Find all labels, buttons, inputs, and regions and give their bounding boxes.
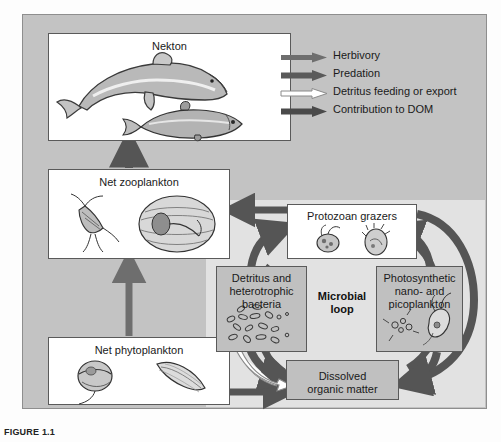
box-dom-label-2: organic matter [287, 383, 398, 396]
box-photosynthetic-plankton[interactable]: Photosynthetic nano- and picoplankton [376, 266, 463, 352]
figure-caption-label: FIGURE [4, 427, 39, 437]
legend-label-detritus-feeding: Detritus feeding or export [333, 85, 457, 97]
ciliate-icon [362, 223, 390, 255]
box-nekton[interactable]: Nekton [48, 33, 291, 141]
legend-item-predation: Predation [281, 66, 481, 84]
box-net-zooplankton-label: Net zooplankton [49, 176, 229, 189]
box-protozoan-grazers-label: Protozoan grazers [288, 210, 416, 223]
microbial-loop-label-line2: loop [307, 303, 377, 316]
predation-arrow-icon [281, 70, 327, 81]
box-dissolved-organic-matter[interactable]: Dissolved organic matter [286, 360, 399, 400]
box-photosynthetic-label-1: Photosynthetic [377, 272, 462, 285]
detritus-feeding-arrow-icon [281, 88, 327, 99]
box-dom-label-1: Dissolved [287, 370, 398, 383]
legend-label-contribution-dom: Contribution to DOM [333, 103, 433, 115]
box-detritus-bacteria-label-3: bacteria [217, 298, 306, 311]
dolphin-icon [57, 53, 227, 118]
box-detritus-bacteria-label-1: Detritus and [217, 272, 306, 285]
microbial-loop-label-line1: Microbial [307, 290, 377, 303]
box-net-zooplankton[interactable]: Net zooplankton [48, 169, 230, 259]
figure-canvas: Nekton N [0, 0, 501, 442]
larvacean-icon [139, 196, 215, 252]
legend: Herbivory Predation Detritus feeding or … [281, 48, 481, 120]
box-net-phytoplankton[interactable]: Net phytoplankton [48, 337, 230, 405]
picoplankton-cluster-icon [383, 309, 419, 341]
flagellate-icon [317, 225, 340, 252]
legend-item-detritus-feeding: Detritus feeding or export [281, 84, 481, 102]
legend-item-herbivory: Herbivory [281, 48, 481, 66]
legend-item-contribution-dom: Contribution to DOM [281, 102, 481, 120]
legend-label-herbivory: Herbivory [333, 49, 380, 61]
box-detritus-bacteria[interactable]: Detritus and heterotrophic bacteria [216, 266, 307, 352]
diatom-icon [157, 362, 205, 392]
box-photosynthetic-label-2: nano- and [377, 285, 462, 298]
box-protozoan-grazers[interactable]: Protozoan grazers [287, 204, 417, 259]
box-net-phytoplankton-label: Net phytoplankton [49, 344, 229, 357]
figure-caption: FIGURE 1.1 [4, 427, 55, 437]
herbivory-arrow-icon [281, 52, 327, 63]
box-detritus-bacteria-label-2: heterotrophic [217, 285, 306, 298]
microbial-loop-label: Microbial loop [307, 290, 377, 316]
box-nekton-label: Nekton [49, 40, 290, 53]
fish-icon [123, 101, 242, 140]
dinoflagellate-icon [78, 361, 112, 404]
copepod-icon [71, 194, 119, 252]
legend-label-predation: Predation [333, 67, 380, 79]
box-photosynthetic-label-3: picoplankton [377, 298, 462, 311]
contribution-dom-arrow-icon [281, 106, 327, 117]
figure-caption-number: 1.1 [42, 427, 55, 437]
